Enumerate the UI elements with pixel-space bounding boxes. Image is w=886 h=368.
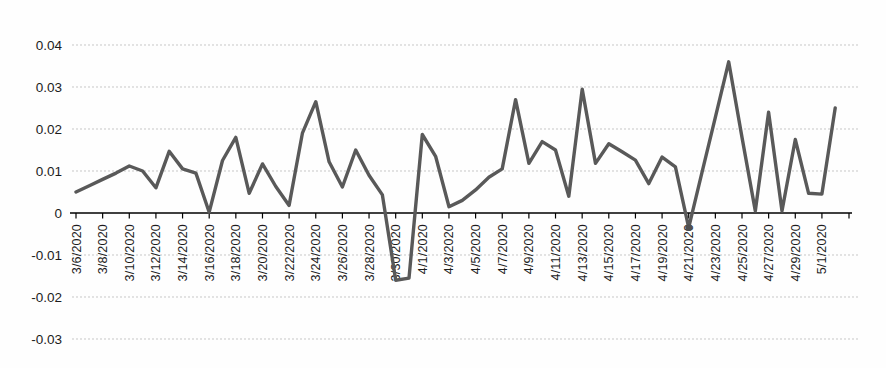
x-axis xyxy=(70,213,852,219)
x-tick-label: 4/11/2020 xyxy=(549,224,563,280)
x-tick-label: 3/16/2020 xyxy=(203,224,217,281)
returns-line-chart: 0.040.030.020.010-0.01-0.02-0.033/6/2020… xyxy=(0,0,886,368)
y-tick-label: 0.04 xyxy=(36,38,63,53)
chart-canvas: 0.040.030.020.010-0.01-0.02-0.033/6/2020… xyxy=(0,0,886,368)
x-tick-label: 4/3/2020 xyxy=(442,224,456,274)
x-tick-label: 3/10/2020 xyxy=(123,224,137,281)
x-tick-label: 5/1/2020 xyxy=(815,224,829,274)
gridlines xyxy=(72,45,860,339)
x-tick-label: 3/24/2020 xyxy=(309,224,323,281)
y-tick-label: -0.03 xyxy=(31,332,62,347)
y-tick-label: 0.01 xyxy=(36,164,62,179)
x-tick-label: 4/1/2020 xyxy=(416,224,430,274)
x-tick-label: 4/9/2020 xyxy=(522,224,536,274)
x-tick-label: 3/18/2020 xyxy=(229,224,243,281)
y-tick-label: 0 xyxy=(54,206,62,221)
x-tick-label: 4/17/2020 xyxy=(629,224,643,281)
trough-marker-dot xyxy=(685,224,692,231)
y-axis-labels: 0.040.030.020.010-0.01-0.02-0.03 xyxy=(31,38,62,347)
x-tick-label: 3/6/2020 xyxy=(70,224,84,274)
x-tick-label: 4/27/2020 xyxy=(762,224,776,281)
x-tick-label: 4/23/2020 xyxy=(709,224,723,281)
y-tick-label: -0.01 xyxy=(31,248,62,263)
x-tick-label: 4/29/2020 xyxy=(789,224,803,281)
x-tick-label: 4/7/2020 xyxy=(496,224,510,274)
x-tick-label: 3/22/2020 xyxy=(283,224,297,281)
x-tick-label: 3/12/2020 xyxy=(149,224,163,281)
x-tick-label: 4/15/2020 xyxy=(602,224,616,281)
x-tick-label: 3/20/2020 xyxy=(256,224,270,281)
x-tick-label: 3/14/2020 xyxy=(176,224,190,281)
y-tick-label: 0.02 xyxy=(36,122,62,137)
x-tick-label: 4/13/2020 xyxy=(576,224,590,281)
x-axis-labels: 3/6/20203/8/20203/10/20203/12/20203/14/2… xyxy=(70,224,830,281)
x-tick-label: 4/19/2020 xyxy=(656,224,670,281)
x-tick-label: 4/25/2020 xyxy=(736,224,750,281)
y-tick-label: 0.03 xyxy=(36,80,62,95)
x-tick-label: 4/21/2020 xyxy=(682,224,696,281)
y-tick-label: -0.02 xyxy=(31,290,62,305)
x-tick-label: 3/26/2020 xyxy=(336,224,350,281)
x-tick-label: 3/8/2020 xyxy=(96,224,110,274)
x-tick-label: 3/28/2020 xyxy=(363,224,377,281)
x-tick-label: 4/5/2020 xyxy=(469,224,483,274)
